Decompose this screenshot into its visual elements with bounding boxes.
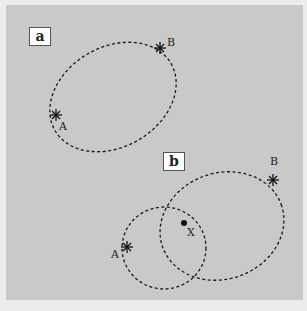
point-label-a-A: A bbox=[59, 120, 67, 133]
star-icon-a-B bbox=[154, 42, 166, 54]
star-icon-b-A bbox=[121, 241, 133, 253]
panel-label-a: a bbox=[29, 27, 51, 46]
diagram-canvas bbox=[0, 0, 307, 311]
point-label-a-B: B bbox=[167, 36, 175, 49]
point-label-b-X: X bbox=[187, 226, 195, 239]
point-label-b-B: B bbox=[270, 155, 278, 168]
point-label-b-A: A bbox=[111, 248, 119, 261]
panel-label-b: b bbox=[163, 152, 185, 171]
star-icon-b-B bbox=[267, 174, 279, 186]
